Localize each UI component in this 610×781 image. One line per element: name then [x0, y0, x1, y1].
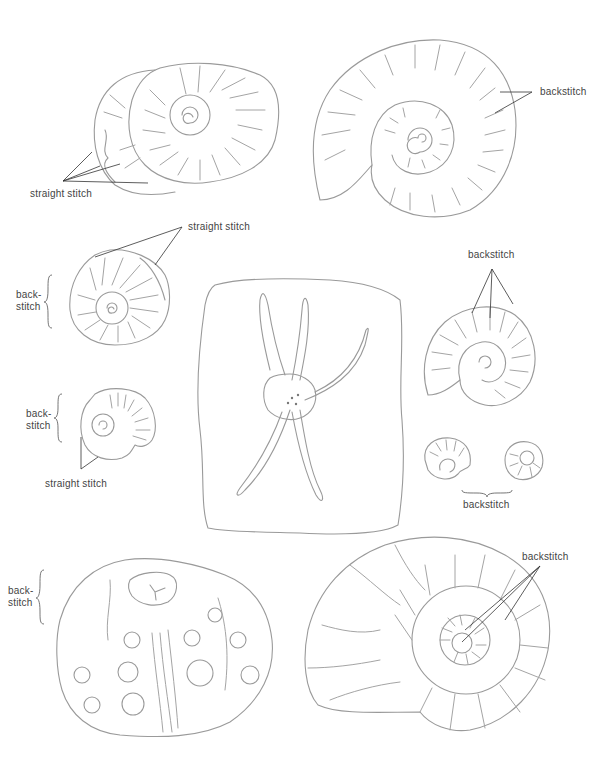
small-ammonite-drawing	[70, 250, 170, 345]
label-backstitch-small-ammonite: back- stitch	[16, 289, 41, 313]
large-ammonite-drawing	[313, 40, 516, 217]
label-backstitch-nautilus: backstitch	[522, 551, 568, 563]
label-backstitch-sea-urchin: back- stitch	[8, 585, 33, 609]
fossil-illustration	[0, 0, 610, 781]
medium-ammonite-drawing	[424, 307, 535, 406]
label-backstitch-ammonite: backstitch	[540, 86, 586, 98]
snail-shell-drawing	[94, 63, 278, 194]
sea-urchin-drawing	[57, 559, 273, 737]
label-backstitch-tiny-ammonite: back- stitch	[26, 408, 51, 432]
starfish-slab-drawing	[198, 279, 403, 534]
tiny-shells-drawing	[425, 438, 543, 480]
label-straight-stitch-tiny-ammonite: straight stitch	[45, 478, 107, 490]
label-backstitch-medium-ammonite: backstitch	[468, 249, 514, 261]
label-straight-stitch-small-ammonite: straight stitch	[188, 221, 250, 233]
label-backstitch-tiny-shells: backstitch	[463, 499, 509, 511]
nautilus-drawing	[305, 537, 550, 730]
tiny-ammonite-drawing	[81, 389, 155, 460]
label-straight-stitch-snail: straight stitch	[30, 188, 92, 200]
